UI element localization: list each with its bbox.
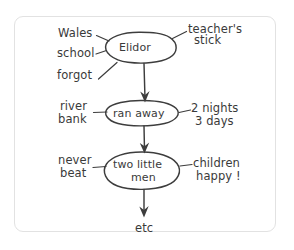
label-children: children: [193, 156, 240, 170]
label-3-days: 3 days: [195, 114, 234, 128]
label-school: school: [57, 46, 94, 60]
connector-school: [96, 51, 107, 55]
label-wales: Wales: [58, 26, 92, 40]
label-beat: beat: [60, 166, 87, 180]
story-map-diagram: Elidor Wales school forgot teacher's sti…: [0, 0, 294, 250]
label-happy: happy !: [196, 169, 241, 183]
connector-nights-days: [179, 110, 191, 113]
connector-river-bank: [94, 112, 108, 113]
node-ran-away[interactable]: ran away: [106, 100, 179, 125]
connector-teachers-stick: [173, 32, 187, 39]
label-etc: etc: [135, 221, 153, 235]
connector-children-happy: [180, 165, 192, 167]
connector-never-beat: [93, 167, 106, 168]
node-two-little-men-label-line1: two little: [113, 158, 162, 171]
node-two-little-men-label-line2: men: [131, 171, 156, 184]
diagram-canvas: Elidor Wales school forgot teacher's sti…: [0, 0, 294, 250]
node-two-little-men[interactable]: two little men: [104, 152, 179, 189]
node-ran-away-label: ran away: [113, 107, 165, 120]
label-forgot: forgot: [57, 68, 92, 82]
arrow-elidor-to-ran-away: [140, 64, 149, 103]
connector-forgot: [99, 63, 118, 80]
label-2-nights: 2 nights: [191, 101, 238, 115]
label-river: river: [60, 99, 87, 113]
label-never: never: [58, 153, 92, 167]
connector-wales: [97, 36, 110, 42]
node-elidor-label: Elidor: [119, 41, 151, 54]
arrow-shaft-1: [144, 64, 145, 100]
arrow-two-little-men-to-etc: [139, 190, 148, 218]
arrow-ran-away-to-two-little-men: [140, 126, 149, 154]
node-elidor[interactable]: Elidor: [106, 32, 177, 63]
label-stick: stick: [194, 33, 221, 47]
label-bank: bank: [58, 112, 87, 126]
